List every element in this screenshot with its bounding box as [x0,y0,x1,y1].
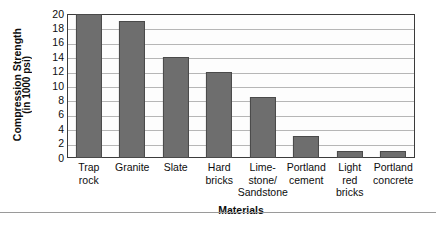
bar-chart-figure: Compression Strength (in 1000 psi) 20181… [0,0,436,226]
bar[interactable] [250,97,276,158]
x-tick-label-line: rock [61,174,117,187]
y-axis-title: Compression Strength (in 1000 psi) [0,0,44,170]
bar-slot [67,14,111,158]
x-tick-label: Portlandconcrete [366,161,422,186]
bar-slot [198,14,242,158]
bar-slot [328,14,372,158]
bar[interactable] [119,21,145,158]
bar-slot [372,14,416,158]
bottom-divider [0,212,436,213]
bar[interactable] [163,57,189,158]
x-tick-label-line: concrete [366,174,422,187]
bar[interactable] [380,151,406,158]
bar-series [67,14,415,158]
bar-slot [241,14,285,158]
x-tick-label-line: bricks [322,186,378,199]
y-axis-title-units: (in 1000 psi) [22,56,32,114]
x-tick-label-line: Sandstone [235,186,291,199]
bar-slot [111,14,155,158]
bar[interactable] [293,136,319,158]
bar[interactable] [206,72,232,158]
bar-slot [154,14,198,158]
bar[interactable] [337,151,363,158]
bar-slot [285,14,329,158]
x-axis-title: Materials [67,204,415,216]
bar[interactable] [76,14,102,158]
x-axis-ticks: TraprockGraniteSlateHardbricksLime-stone… [67,161,415,203]
x-tick-label-line: Portland [366,161,422,174]
